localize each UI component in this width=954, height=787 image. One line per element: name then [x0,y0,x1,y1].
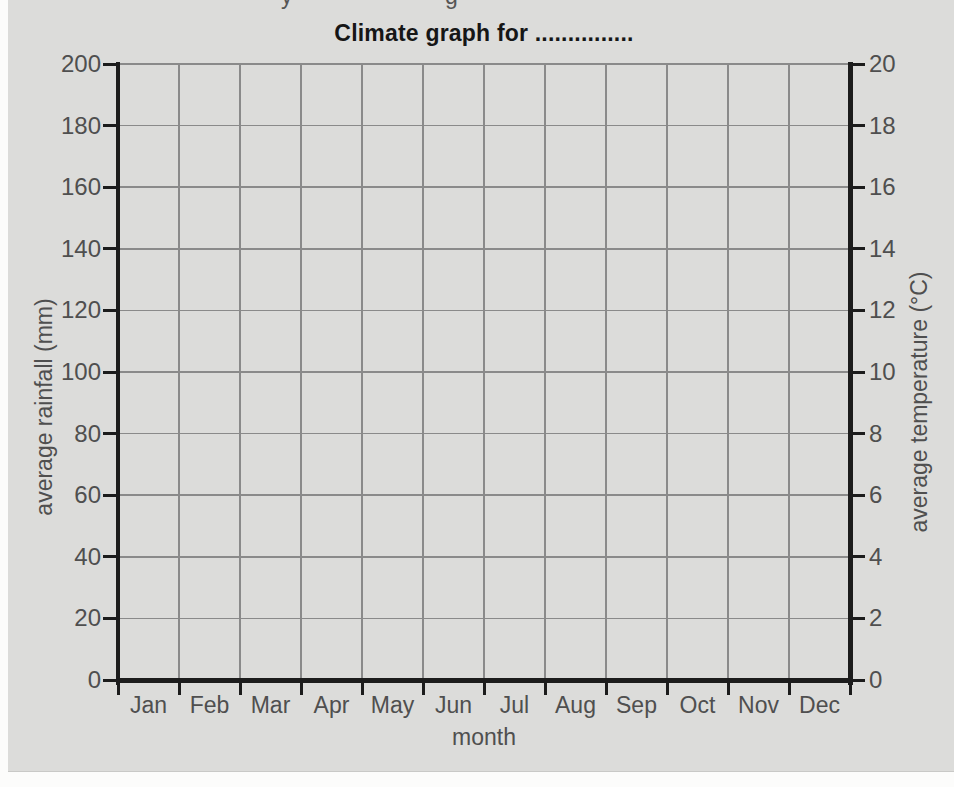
temperature-tick-label: 18 [869,111,939,141]
y-axis-left [116,62,121,685]
month-label: Jun [423,692,484,719]
v-gridline [178,64,180,680]
temperature-tick-label: 0 [869,665,939,695]
month-label: Sep [606,692,667,719]
v-gridline [300,64,302,680]
climate-graph: Climate graph for ............... 200180… [0,0,954,787]
rainfall-tick-label: 200 [0,49,101,79]
temperature-tick-label: 16 [869,172,939,202]
month-label: Aug [545,692,606,719]
right-axis-title: average temperature (°C) [906,271,933,532]
temperature-tick-label: 2 [869,603,939,633]
chart-title: Climate graph for ............... [118,20,850,47]
v-gridline [361,64,363,680]
month-label: Jan [118,692,179,719]
rainfall-tick-label: 40 [0,542,101,572]
x-axis [116,678,853,683]
left-axis-title: average rainfall (mm) [31,298,58,515]
month-label: May [362,692,423,719]
v-gridline [788,64,790,680]
x-axis-title: month [118,724,850,751]
worksheet-page: { "page": { "sheet_color": "#dcdcda", "p… [0,0,954,787]
temperature-tick-label: 14 [869,234,939,264]
y-axis-right [848,62,853,685]
month-label: Mar [240,692,301,719]
rainfall-tick-label: 180 [0,111,101,141]
month-label: Apr [301,692,362,719]
v-gridline [605,64,607,680]
month-label: Jul [484,692,545,719]
month-label: Nov [728,692,789,719]
rainfall-tick-label: 140 [0,234,101,264]
temperature-tick-label: 20 [869,49,939,79]
month-label: Oct [667,692,728,719]
v-gridline [422,64,424,680]
v-gridline [727,64,729,680]
rainfall-tick-label: 160 [0,172,101,202]
v-gridline [483,64,485,680]
month-label: Dec [789,692,850,719]
rainfall-tick-label: 0 [0,665,101,695]
v-gridline [239,64,241,680]
temperature-tick-label: 4 [869,542,939,572]
rainfall-tick-label: 20 [0,603,101,633]
v-gridline [666,64,668,680]
v-gridline [544,64,546,680]
month-label: Feb [179,692,240,719]
